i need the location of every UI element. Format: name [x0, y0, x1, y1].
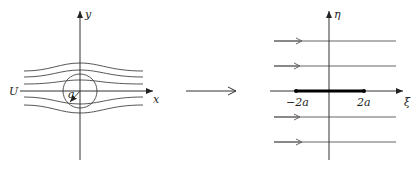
- radius-label: a: [68, 88, 75, 101]
- diagram-canvas: x y U a −2a 2a ξ η: [0, 0, 418, 171]
- x-axis-label: x: [153, 93, 160, 106]
- streamlines: [24, 63, 143, 113]
- xi-axis-label: ξ: [404, 96, 411, 109]
- eta-axis-label: η: [334, 8, 341, 21]
- transformed-plane: −2a 2a ξ η: [270, 8, 411, 160]
- plate-left-endpoint: [294, 89, 298, 93]
- plate-right-label: 2a: [356, 96, 371, 109]
- plate-left-label: −2a: [286, 96, 309, 109]
- plate-right-endpoint: [362, 89, 366, 93]
- y-axis-label: y: [84, 8, 92, 21]
- physical-plane: x y U a: [9, 8, 160, 160]
- freestream-label: U: [9, 85, 19, 98]
